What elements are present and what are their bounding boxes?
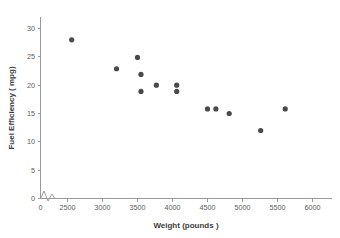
chart-canvas: 051015202530 025003000350040004500500055… xyxy=(0,0,340,238)
y-axis-ticks: 051015202530 xyxy=(27,24,41,203)
x-axis-title: Weight (pounds ) xyxy=(153,221,219,230)
y-tick-label: 0 xyxy=(31,194,35,203)
y-tick-label: 30 xyxy=(27,24,35,33)
x-tick-label: 2500 xyxy=(60,203,76,212)
y-axis-title: Fuel Efficiency ( mpg) xyxy=(7,66,16,149)
data-point xyxy=(174,83,179,88)
scatter-chart: 051015202530 025003000350040004500500055… xyxy=(0,0,340,238)
data-point xyxy=(114,66,119,71)
data-point xyxy=(138,89,143,94)
y-tick-label: 15 xyxy=(27,109,35,118)
data-point xyxy=(174,89,179,94)
data-point xyxy=(138,72,143,77)
y-tick-label: 20 xyxy=(27,81,35,90)
y-tick-label: 25 xyxy=(27,52,35,61)
axis-break-icon xyxy=(41,191,55,201)
y-tick-label: 5 xyxy=(31,166,35,175)
x-tick-label: 5500 xyxy=(270,203,286,212)
data-point xyxy=(227,111,232,116)
x-tick-label: 6000 xyxy=(305,203,321,212)
data-point xyxy=(154,83,159,88)
x-tick-label: 3500 xyxy=(130,203,146,212)
x-tick-label: 3000 xyxy=(95,203,111,212)
axes-group xyxy=(41,17,333,201)
data-point xyxy=(69,37,74,42)
data-points-group xyxy=(69,37,288,133)
data-point xyxy=(205,106,210,111)
y-tick-label: 10 xyxy=(27,137,35,146)
x-tick-label: 4500 xyxy=(200,203,216,212)
x-axis-ticks: 025003000350040004500500055006000 xyxy=(39,199,321,212)
data-point xyxy=(135,55,140,60)
data-point xyxy=(213,106,218,111)
x-tick-label: 4000 xyxy=(165,203,181,212)
data-point xyxy=(258,128,263,133)
data-point xyxy=(283,106,288,111)
x-tick-label: 0 xyxy=(39,203,43,212)
x-tick-label: 5000 xyxy=(235,203,251,212)
